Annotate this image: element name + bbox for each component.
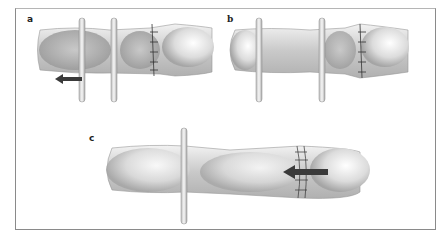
panel-b: [230, 18, 409, 102]
panel-c: [106, 128, 370, 224]
retractor-a2: [111, 18, 117, 102]
retractor-b1: [256, 18, 262, 102]
arrow-left-icon: [55, 74, 82, 84]
retractor-b2: [319, 18, 325, 102]
panel-a: [38, 18, 215, 102]
retractor-c1: [181, 128, 187, 224]
retractor-a1: [79, 18, 85, 102]
illustration: [0, 0, 445, 241]
